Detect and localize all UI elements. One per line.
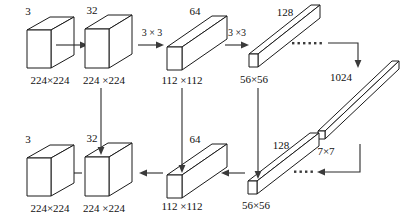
label-kernel-1: 3 × 3	[142, 27, 163, 38]
label-enc-128-spatial: 56×56	[240, 73, 269, 85]
label-enc-input-channels: 3	[25, 5, 31, 17]
label-enc-input-spatial: 224×224	[30, 74, 70, 86]
label-dec-128-spatial: 56×56	[242, 199, 271, 211]
block-dec-out	[27, 145, 74, 196]
label-bottleneck-channels: 1024	[330, 71, 353, 83]
ellipsis-decoder	[294, 171, 313, 173]
skip-connection-128	[255, 88, 262, 179]
arrow-dec-128-to-dec-64	[221, 170, 245, 177]
label-enc-64-channels: 64	[190, 5, 202, 17]
label-dec-32-channels: 32	[87, 132, 98, 144]
skip-connection-64	[179, 88, 186, 173]
skip-connection-32	[98, 88, 105, 155]
arrow-encoder-to-bottleneck	[328, 43, 361, 68]
label-enc-32-spatial: 224 ×224	[83, 74, 125, 86]
label-dec-out-spatial: 224×224	[30, 202, 70, 214]
arrow-enc-32-to-enc-64	[138, 42, 164, 49]
arrow-enc-64-to-enc-128	[225, 42, 249, 49]
block-dec-64	[167, 144, 227, 198]
label-enc-128-channels: 128	[277, 6, 294, 18]
label-dec-64-channels: 64	[190, 133, 202, 145]
label-dec-32-spatial: 224 ×224	[83, 202, 125, 214]
label-enc-64-spatial: 112 ×112	[161, 74, 202, 86]
ellipsis-encoder	[292, 42, 322, 44]
architecture-diagram-canvas: 3 224×224 32 224 ×224 3 × 3 64 112 ×112	[0, 0, 407, 221]
block-enc-32	[85, 15, 132, 68]
label-enc-32-channels: 32	[87, 4, 98, 16]
label-kernel-2: 3 ×3	[228, 27, 246, 38]
block-dec-32	[85, 143, 132, 196]
block-enc-64	[167, 16, 227, 70]
label-dec-64-spatial: 112 ×112	[161, 200, 202, 212]
block-enc-input	[27, 17, 74, 68]
arrow-dec-64-to-dec-32	[139, 170, 163, 177]
label-bottleneck-spatial: 7×7	[317, 145, 335, 157]
label-dec-out-channels: 3	[25, 133, 31, 145]
label-dec-128-channels: 128	[273, 139, 290, 151]
diagram-svg: 3 224×224 32 224 ×224 3 × 3 64 112 ×112	[0, 0, 407, 221]
